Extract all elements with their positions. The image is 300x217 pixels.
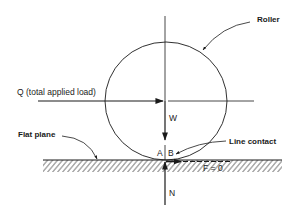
line-contact-label: Line contact — [229, 138, 276, 146]
roller-label: Roller — [257, 16, 280, 24]
roller-free-body-diagram — [0, 0, 300, 217]
flat-plane-label: Flat plane — [18, 131, 55, 139]
friction-label: F = 0 — [203, 164, 223, 173]
flat-plane-leader — [62, 136, 97, 159]
ground-hatching — [43, 160, 282, 172]
line-contact-leader — [176, 141, 226, 154]
point-b-label: B — [168, 149, 174, 158]
weight-label: W — [169, 114, 177, 123]
normal-force-label: N — [169, 189, 175, 198]
point-a-label: A — [157, 149, 163, 158]
roller-leader — [203, 22, 250, 50]
applied-load-label: Q (total applied load) — [17, 88, 96, 97]
